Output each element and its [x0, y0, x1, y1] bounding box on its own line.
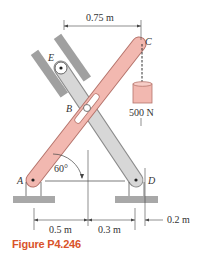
- label-D: D: [148, 176, 155, 186]
- ground-A: [13, 196, 55, 203]
- label-B: B: [66, 104, 72, 114]
- weight-block: [133, 82, 152, 103]
- label-A: A: [17, 176, 23, 186]
- label-E: E: [48, 53, 54, 63]
- figure-caption: Figure P4.246: [12, 238, 81, 250]
- roller-E: [55, 62, 67, 74]
- ground-D: [115, 196, 158, 203]
- dimension-label-bottom-left: 0.5 m: [49, 225, 72, 235]
- dimension-label-bottom-middle: 0.3 m: [98, 225, 121, 235]
- load-label: 500 N: [129, 108, 154, 118]
- dimension-label-top: 0.75 m: [86, 13, 114, 23]
- angle-label: 60°: [54, 164, 68, 174]
- dimension-top: [64, 20, 141, 40]
- pin-B: [84, 105, 91, 112]
- dimension-label-bottom-right: 0.2 m: [167, 215, 190, 225]
- label-C: C: [145, 37, 152, 47]
